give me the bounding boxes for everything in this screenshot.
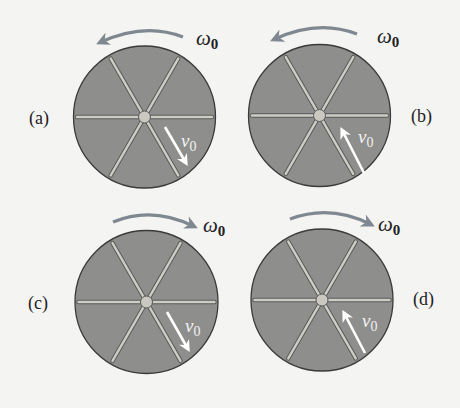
- panel-a: ω0 v0 (a): [29, 26, 218, 188]
- rotation-arrow-clockwise: [113, 215, 193, 226]
- hub: [141, 296, 153, 308]
- panel-label-b: (b): [411, 106, 432, 127]
- rotating-wheels-figure: ω0 v0 (a) ω0 v0 (b) ω0 v0 (c) ω0 v0 (d): [0, 0, 460, 408]
- hub: [316, 294, 328, 306]
- rotation-arrow-clockwise: [290, 213, 370, 224]
- omega-label: ω0: [196, 26, 218, 52]
- hub: [139, 111, 151, 123]
- omega-label: ω0: [377, 24, 399, 50]
- panel-label-d: (d): [413, 289, 434, 310]
- wheel: [249, 45, 391, 187]
- rotation-arrow-counterclockwise: [101, 31, 183, 42]
- wheel: [75, 231, 218, 374]
- panel-c: ω0 v0 (c): [28, 213, 225, 374]
- rotation-arrow-counterclockwise: [275, 28, 357, 39]
- panel-d: ω0 v0 (d): [251, 212, 434, 371]
- omega-label: ω0: [203, 213, 225, 239]
- panel-label-c: (c): [28, 293, 48, 314]
- omega-label: ω0: [378, 212, 400, 238]
- wheel: [74, 46, 216, 188]
- panel-label-a: (a): [29, 108, 49, 129]
- panel-b: ω0 v0 (b): [249, 24, 433, 187]
- hub: [314, 110, 326, 122]
- wheel: [251, 229, 393, 371]
